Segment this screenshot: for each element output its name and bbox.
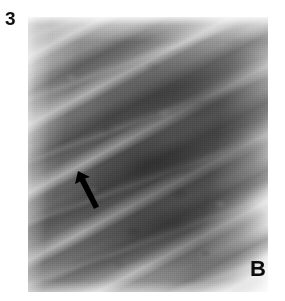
radiograph-base-tone bbox=[28, 17, 268, 292]
rib-shadows bbox=[28, 17, 268, 292]
annotation-arrow-icon bbox=[72, 167, 106, 213]
chest-wall-stripe bbox=[28, 17, 268, 292]
panel-label: B bbox=[250, 258, 266, 280]
film-top-edge-halo bbox=[28, 17, 268, 292]
lung-parenchyma-texture bbox=[28, 17, 268, 292]
film-bottom-edge-halo bbox=[28, 17, 268, 292]
film-grain-overlay bbox=[28, 17, 268, 292]
secondary-rib-shadows bbox=[28, 17, 268, 292]
chest-radiograph-image bbox=[28, 17, 268, 292]
figure-number: 3 bbox=[5, 9, 16, 29]
figure-panel: 3 B bbox=[0, 0, 285, 301]
mediastinal-shadow bbox=[28, 17, 268, 292]
